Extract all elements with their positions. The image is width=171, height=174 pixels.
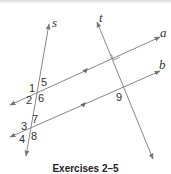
label-a: a [160, 25, 167, 40]
angle-7: 7 [32, 113, 38, 125]
angle-8: 8 [31, 130, 37, 142]
line-t [97, 22, 153, 159]
angle-3: 3 [21, 120, 27, 132]
angle-2: 2 [26, 94, 32, 106]
figure-caption: Exercises 2–5 [0, 163, 171, 174]
geometry-diagram: s t a b 1 5 2 6 3 7 4 8 9 [0, 0, 171, 174]
label-b: b [159, 57, 166, 72]
angle-1: 1 [29, 82, 35, 94]
parallel-arrow-a [82, 68, 89, 74]
label-t: t [99, 10, 103, 25]
angle-5: 5 [41, 76, 47, 88]
label-s: s [52, 15, 57, 30]
angle-9: 9 [116, 91, 122, 103]
angle-4: 4 [19, 133, 25, 145]
angle-6: 6 [38, 92, 44, 104]
parallel-marks [80, 68, 89, 108]
